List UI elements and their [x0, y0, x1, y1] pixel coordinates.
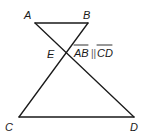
segment-ad: [35, 23, 134, 117]
parallel-symbol: ||: [91, 48, 96, 59]
point-label-c: C: [5, 121, 13, 133]
geometry-diagram: A B E C D AB || CD: [0, 0, 146, 137]
annotation-ab: AB: [73, 47, 89, 59]
point-label-e: E: [47, 48, 55, 60]
annotation-cd: CD: [97, 47, 113, 59]
point-label-a: A: [23, 9, 31, 21]
point-label-d: D: [130, 121, 138, 133]
point-label-b: B: [83, 9, 90, 21]
segment-bc: [19, 23, 88, 117]
parallel-annotation: AB || CD: [73, 45, 113, 59]
